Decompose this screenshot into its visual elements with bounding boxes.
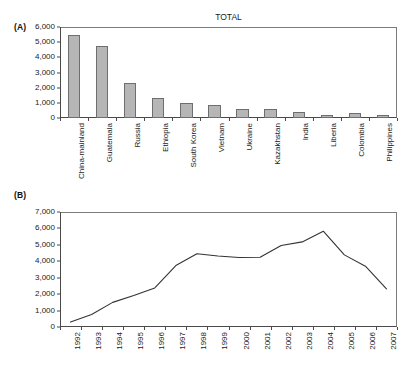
x-tick-label: 1992	[74, 332, 82, 350]
x-tick-mark	[144, 118, 145, 121]
x-tick-label: 1999	[221, 332, 229, 350]
bar	[152, 98, 164, 118]
bar	[264, 109, 276, 118]
x-tick-label: 2000	[243, 332, 251, 350]
x-tick-mark	[313, 118, 314, 121]
x-tick-mark	[334, 327, 335, 330]
x-tick-label: South Korea	[190, 123, 198, 167]
x-tick-mark	[172, 118, 173, 121]
x-tick-mark	[376, 327, 377, 330]
x-tick-label: India	[302, 123, 310, 140]
bar-plot-area: 01,0002,0003,0004,0005,0006,000 China-ma…	[60, 27, 397, 118]
x-tick-mark	[229, 118, 230, 121]
y-tick-mark	[57, 102, 60, 103]
panel-a-bar-chart: (A) TOTAL 01,0002,0003,0004,0005,0006,00…	[0, 0, 418, 192]
line-plot-area: 01,0002,0003,0004,0005,0006,0007,000 199…	[60, 212, 397, 327]
panel-b-label: (B)	[14, 190, 26, 200]
x-tick-label: Philippines	[386, 123, 394, 162]
y-tick-mark	[57, 87, 60, 88]
y-tick-mark	[57, 27, 60, 28]
x-tick-mark	[60, 118, 61, 121]
x-tick-label: Liberia	[330, 123, 338, 147]
x-tick-mark	[285, 118, 286, 121]
x-tick-label: 1996	[158, 332, 166, 350]
x-tick-mark	[207, 327, 208, 330]
bar	[293, 112, 305, 118]
y-tick-mark	[57, 72, 60, 73]
x-tick-mark	[116, 118, 117, 121]
bar	[124, 83, 136, 118]
x-tick-mark	[186, 327, 187, 330]
bar	[96, 46, 108, 118]
bar	[68, 35, 80, 118]
x-tick-mark	[271, 327, 272, 330]
x-tick-label: Kazakhstan	[274, 123, 282, 165]
panel-a-label: (A)	[14, 22, 26, 32]
x-tick-mark	[250, 327, 251, 330]
y-tick-mark	[57, 57, 60, 58]
x-tick-mark	[397, 327, 398, 330]
bar	[236, 109, 248, 118]
x-tick-label: 2005	[348, 332, 356, 350]
x-tick-label: Ukraine	[246, 123, 254, 151]
panel-b-line-chart: (B) 01,0002,0003,0004,0005,0006,0007,000…	[0, 185, 418, 387]
x-tick-mark	[200, 118, 201, 121]
line-series	[60, 212, 397, 327]
x-tick-label: Russia	[134, 123, 142, 147]
x-tick-label: 2004	[327, 332, 335, 350]
x-tick-mark	[341, 118, 342, 121]
x-tick-mark	[60, 327, 61, 330]
y-axis-a	[60, 27, 61, 118]
x-tick-label: 2003	[306, 332, 314, 350]
x-tick-label: 1998	[200, 332, 208, 350]
x-tick-mark	[369, 118, 370, 121]
bar	[321, 115, 333, 118]
x-tick-mark	[165, 327, 166, 330]
x-tick-label: Vietnam	[218, 123, 226, 152]
bar	[349, 113, 361, 118]
line-path	[71, 231, 387, 322]
x-tick-label: 2006	[369, 332, 377, 350]
x-tick-label: 1994	[116, 332, 124, 350]
x-tick-mark	[88, 118, 89, 121]
x-tick-mark	[313, 327, 314, 330]
x-tick-label: 2002	[285, 332, 293, 350]
bar	[208, 105, 220, 118]
x-tick-mark	[102, 327, 103, 330]
x-tick-mark	[81, 327, 82, 330]
x-tick-mark	[229, 327, 230, 330]
y-tick-mark	[57, 42, 60, 43]
x-tick-label: 1997	[179, 332, 187, 350]
x-tick-label: 1993	[95, 332, 103, 350]
x-tick-mark	[397, 118, 398, 121]
x-tick-label: 2001	[264, 332, 272, 350]
bar	[180, 103, 192, 118]
chart-title-total: TOTAL	[60, 12, 397, 22]
x-tick-label: Colombia	[358, 123, 366, 157]
x-tick-label: Guatemala	[106, 123, 114, 162]
plot-frame-a	[60, 27, 397, 118]
x-tick-mark	[123, 327, 124, 330]
x-tick-label: 1995	[137, 332, 145, 350]
figure-container: (A) TOTAL 01,0002,0003,0004,0005,0006,00…	[0, 0, 418, 387]
x-tick-mark	[355, 327, 356, 330]
bar	[377, 115, 389, 118]
x-tick-mark	[292, 327, 293, 330]
x-tick-mark	[257, 118, 258, 121]
x-tick-mark	[144, 327, 145, 330]
x-tick-label: China-mainland	[78, 123, 86, 179]
x-tick-label: 2007	[390, 332, 398, 350]
x-tick-label: Ethiopia	[162, 123, 170, 152]
